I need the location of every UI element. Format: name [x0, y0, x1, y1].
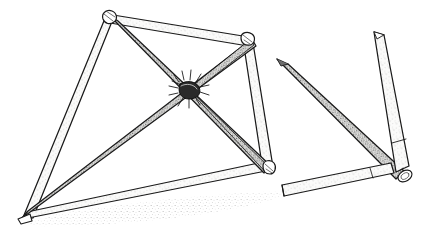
stick-frame-illustration: [0, 0, 433, 239]
apex-joint: [103, 10, 117, 23]
figure-root: Pencil line drawing: a tetrahedral frame…: [0, 0, 433, 239]
